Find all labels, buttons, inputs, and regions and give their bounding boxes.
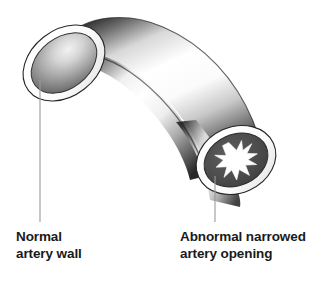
label-normal-artery-wall: Normal artery wall [16,228,82,262]
label-narrowed-line-1: Abnormal narrowed [180,228,306,245]
label-narrowed-line-2: artery opening [180,245,306,262]
label-narrowed-artery-opening: Abnormal narrowed artery opening [180,228,306,262]
label-normal-line-1: Normal [16,228,82,245]
label-normal-line-2: artery wall [16,245,82,262]
